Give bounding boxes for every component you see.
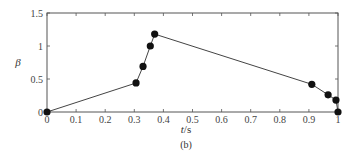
- y-axis-label: β: [14, 56, 21, 68]
- y-axis-ticks: 00.511.5: [31, 8, 339, 118]
- x-tick-label: 0.8: [274, 114, 287, 125]
- x-tick-label: 0: [45, 114, 50, 125]
- data-point-marker: [325, 91, 332, 98]
- data-point-marker: [151, 31, 158, 38]
- data-point-marker: [147, 42, 154, 49]
- x-axis-label-unit: /s: [184, 123, 191, 135]
- data-point-marker: [332, 97, 339, 104]
- y-tick-label: 0.5: [31, 74, 44, 85]
- y-tick-label: 1: [38, 41, 43, 52]
- y-tick-label: 1.5: [31, 8, 44, 19]
- data-point-marker: [139, 63, 146, 70]
- data-point-marker: [334, 108, 341, 115]
- figure-caption: (b): [180, 139, 192, 151]
- x-axis-label: t/s: [181, 123, 191, 135]
- plot-frame: [47, 13, 338, 112]
- line-chart: 00.10.20.30.40.50.60.70.80.91 00.511.5 β…: [0, 0, 351, 159]
- x-tick-label: 0.3: [128, 114, 141, 125]
- x-tick-label: 0.1: [70, 114, 83, 125]
- data-point-marker: [43, 108, 50, 115]
- x-tick-label: 0.6: [215, 114, 228, 125]
- data-series: [43, 31, 341, 116]
- y-tick-label: 0: [38, 107, 43, 118]
- x-tick-label: 0.7: [244, 114, 257, 125]
- data-point-marker: [132, 79, 139, 86]
- x-tick-label: 0.9: [303, 114, 316, 125]
- series-line: [47, 34, 338, 112]
- plot-border: [47, 13, 338, 112]
- data-point-marker: [308, 81, 315, 88]
- x-tick-label: 0.2: [99, 114, 112, 125]
- x-tick-label: 0.4: [157, 114, 170, 125]
- x-tick-label: 1: [336, 114, 341, 125]
- x-axis-ticks: 00.10.20.30.40.50.60.70.80.91: [45, 13, 341, 125]
